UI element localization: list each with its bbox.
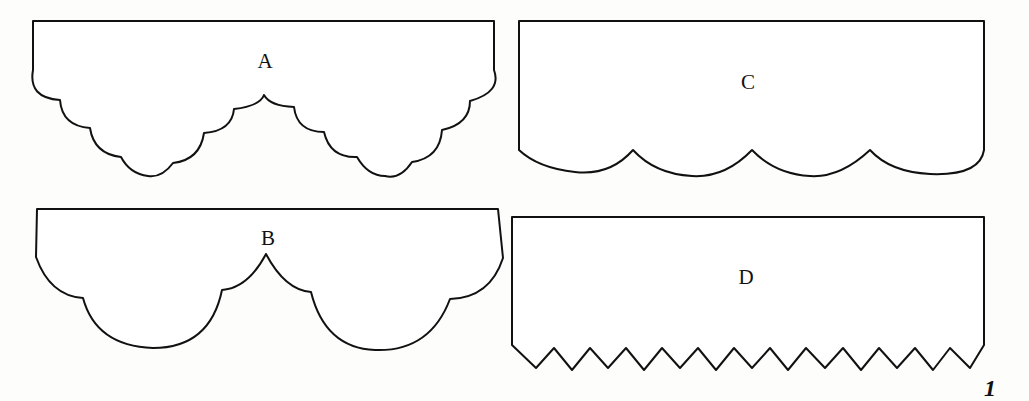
panel-a: A bbox=[32, 21, 495, 177]
valance-patterns-diagram: A B C D 1 bbox=[0, 0, 1029, 401]
panel-c-outline bbox=[519, 21, 984, 176]
panel-a-label: A bbox=[257, 49, 273, 73]
panel-d-outline bbox=[512, 217, 984, 370]
panel-b: B bbox=[36, 209, 503, 350]
page-number: 1 bbox=[984, 375, 996, 401]
panel-d-label: D bbox=[738, 265, 753, 289]
panel-c-label: C bbox=[741, 70, 755, 94]
panel-a-outline bbox=[32, 21, 495, 177]
panel-b-label: B bbox=[261, 226, 275, 250]
panel-c: C bbox=[519, 21, 984, 176]
panel-d: D bbox=[512, 217, 984, 370]
